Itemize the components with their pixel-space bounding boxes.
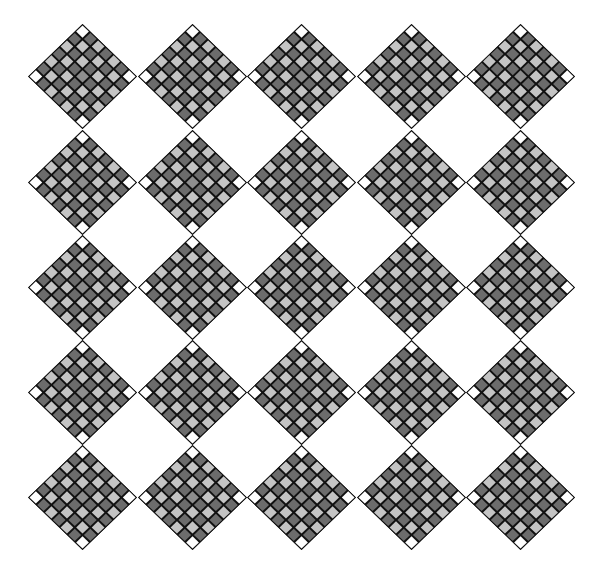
- diamond-grid: [467, 130, 576, 235]
- diamond-grid: [138, 130, 247, 235]
- diamond-grid: [29, 25, 138, 130]
- diamond-grid: [467, 235, 576, 340]
- diamond-grid: [29, 130, 138, 235]
- diamond-grid: [29, 446, 138, 551]
- diamond-grid: [357, 446, 466, 551]
- diamond-grid: [138, 25, 247, 130]
- diamond-checker-pattern: [0, 0, 594, 574]
- diamond-grid: [248, 446, 357, 551]
- diamond-grid: [248, 25, 357, 130]
- diamond-grid: [138, 235, 247, 340]
- diamond-grid: [467, 25, 576, 130]
- diamond-grid: [138, 446, 247, 551]
- diamond-grid: [29, 235, 138, 340]
- diamond-grid: [248, 235, 357, 340]
- diamond-grid: [248, 130, 357, 235]
- diamond-grid: [357, 130, 466, 235]
- diamond-grid: [357, 340, 466, 445]
- diamond-grid: [467, 340, 576, 445]
- diamond-grid: [357, 235, 466, 340]
- diamond-grid: [248, 340, 357, 445]
- diamond-grid: [29, 340, 138, 445]
- diamond-grid: [467, 446, 576, 551]
- diamond-grid: [138, 340, 247, 445]
- diamond-grid: [357, 25, 466, 130]
